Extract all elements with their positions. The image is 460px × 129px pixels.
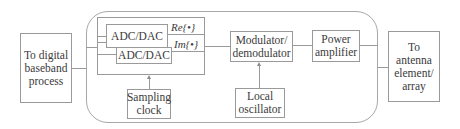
modulator-label: Modulator/ demodulator [231,34,292,60]
antenna-block: To antenna element/ array [388,31,440,102]
baseband-label: To digital baseband process [21,49,71,88]
connector-pa-edge [360,45,378,46]
imag-part-label: Im{•} [174,38,198,50]
antenna-label: To antenna element/ array [389,41,439,93]
adc-dac-bottom-label: ADC/DAC [118,49,170,62]
connector-antenna [378,67,388,68]
connector-container-group [86,47,97,48]
adc-dac-top-label: ADC/DAC [111,30,163,43]
connector-clock-group [149,79,150,89]
arrow-up-icon [257,62,261,66]
re-signal-line [168,34,204,35]
arrow-up-icon [147,75,151,79]
connector-modulator-pa [293,45,312,46]
sampling-clock-label: Sampling clock [127,91,171,117]
local-oscillator-label: Local oscillator [236,90,284,116]
adc-dac-bottom-block: ADC/DAC [116,47,172,64]
real-part-label: Re{•} [171,21,195,33]
connector-group-modulator [205,46,230,47]
connector-group-bottom [97,54,116,55]
adc-dac-top-block: ADC/DAC [106,24,168,48]
modulator-block: Modulator/ demodulator [230,31,293,62]
im-signal-line [172,51,204,52]
connector-lo-modulator [259,66,260,88]
sampling-clock-block: Sampling clock [127,89,171,119]
local-oscillator-block: Local oscillator [235,88,285,118]
connector-group-top [97,36,106,37]
baseband-block: To digital baseband process [20,33,72,103]
connector-baseband [72,68,86,69]
power-amplifier-label: Power amplifier [313,33,359,59]
power-amplifier-block: Power amplifier [312,30,360,62]
connector-group-mid [97,42,106,43]
